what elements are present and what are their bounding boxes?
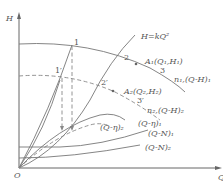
y-axis-label: H: [5, 14, 14, 23]
pump-characteristic-diagram: H O Q H=kQ² A₁(Q₁,H₁) n₁,(Q-H)₁ A₂(Q₂,H₂…: [0, 0, 223, 187]
axes: [17, 12, 222, 170]
point-3p-label: 3′: [137, 96, 144, 105]
point-1-label: 1: [74, 38, 79, 47]
point-A1-label: A₁(Q₁,H₁): [144, 57, 183, 66]
power-1-label: (Q-N)₁: [148, 129, 174, 138]
head-curve-n1-label: n₁,(Q-H)₁: [174, 75, 211, 84]
similarity-parabola: [19, 45, 72, 168]
x-axis-arrow-icon: [215, 166, 222, 170]
power-curve-1: [19, 130, 148, 147]
point-3-label: 3: [160, 66, 165, 75]
arrow-down-icon: [60, 126, 64, 131]
efficiency-2-label: (Q-η)₂: [100, 123, 124, 132]
point-A1: [135, 63, 138, 66]
origin-label: O: [14, 171, 21, 180]
y-axis-arrow-icon: [17, 12, 21, 19]
point-1p-label: 1′: [55, 66, 62, 75]
system-curve-label: H=kQ²: [140, 32, 169, 41]
x-axis-label: Q: [218, 173, 223, 182]
point-A2-label: A₂(Q₂,H₂): [123, 87, 162, 96]
system-curve: [19, 35, 135, 168]
power-2-label: (Q-N)₂: [145, 143, 171, 152]
point-2p-label: 2′: [101, 78, 108, 87]
efficiency-1-label: (Q-η)₁: [138, 119, 162, 128]
head-curve-n2-label: n₂,(Q-H)₂: [147, 106, 184, 115]
point-2-label: 2: [124, 53, 129, 62]
point-A2: [112, 90, 115, 93]
